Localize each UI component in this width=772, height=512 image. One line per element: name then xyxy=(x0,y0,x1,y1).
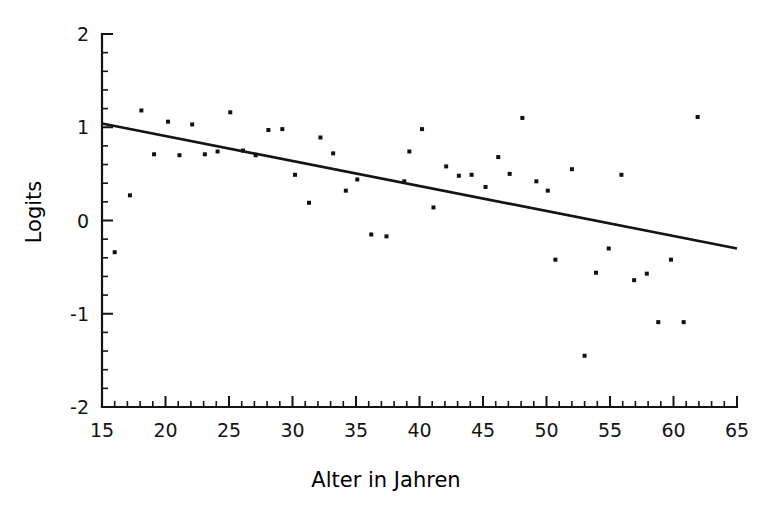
scatter-plot-figure: 1520253035404550556065-2-1012 Alter in J… xyxy=(0,0,772,512)
data-point xyxy=(152,152,156,156)
data-point xyxy=(266,128,270,132)
x-tick-label: 25 xyxy=(217,419,241,441)
y-axis-title-text: Logits xyxy=(22,181,46,244)
data-point xyxy=(355,177,359,181)
data-point xyxy=(431,205,435,209)
data-point xyxy=(607,246,611,250)
data-point xyxy=(632,278,636,282)
x-tick-label: 60 xyxy=(661,419,685,441)
data-point xyxy=(570,167,574,171)
data-point xyxy=(546,189,550,193)
data-point xyxy=(594,271,598,275)
data-point xyxy=(344,189,348,193)
data-point xyxy=(216,149,220,153)
data-point xyxy=(484,185,488,189)
tick-marks xyxy=(102,34,737,407)
plot-canvas: 1520253035404550556065-2-1012 xyxy=(0,0,772,512)
x-tick-label: 30 xyxy=(280,419,304,441)
data-point xyxy=(177,153,181,157)
data-points xyxy=(113,108,700,357)
data-point xyxy=(496,155,500,159)
data-point xyxy=(280,127,284,131)
data-point xyxy=(139,108,143,112)
data-point xyxy=(645,272,649,276)
data-point xyxy=(520,116,524,120)
x-tick-label: 40 xyxy=(407,419,431,441)
data-point xyxy=(407,149,411,153)
axes xyxy=(102,34,737,407)
data-point xyxy=(228,110,232,114)
x-tick-label: 45 xyxy=(471,419,495,441)
data-point xyxy=(166,120,170,124)
x-tick-label: 35 xyxy=(344,419,368,441)
data-point xyxy=(457,174,461,178)
fit-line xyxy=(102,124,737,249)
y-tick-label: 1 xyxy=(77,116,89,138)
x-tick-label: 15 xyxy=(90,419,114,441)
x-axis-title-text: Alter in Jahren xyxy=(311,468,460,492)
x-axis-title: Alter in Jahren xyxy=(0,468,772,492)
data-point xyxy=(384,234,388,238)
data-point xyxy=(508,172,512,176)
data-point xyxy=(420,127,424,131)
x-tick-label: 65 xyxy=(725,419,749,441)
y-tick-label: 2 xyxy=(77,23,89,45)
data-point xyxy=(331,151,335,155)
x-tick-label: 20 xyxy=(153,419,177,441)
data-point xyxy=(669,258,673,262)
data-point xyxy=(696,115,700,119)
y-tick-label: -2 xyxy=(70,396,89,418)
data-point xyxy=(583,354,587,358)
data-point xyxy=(113,250,117,254)
regression-line xyxy=(102,124,737,249)
data-point xyxy=(656,320,660,324)
data-point xyxy=(619,173,623,177)
x-tick-label: 55 xyxy=(598,419,622,441)
data-point xyxy=(682,320,686,324)
data-point xyxy=(128,193,132,197)
data-point xyxy=(369,232,373,236)
data-point xyxy=(318,136,322,140)
data-point xyxy=(553,258,557,262)
data-point xyxy=(470,173,474,177)
y-tick-label: 0 xyxy=(77,210,89,232)
data-point xyxy=(293,173,297,177)
data-point xyxy=(190,122,194,126)
y-axis-title: Logits xyxy=(22,132,46,292)
data-point xyxy=(534,179,538,183)
data-point xyxy=(307,201,311,205)
data-point xyxy=(203,152,207,156)
data-point xyxy=(444,164,448,168)
y-tick-label: -1 xyxy=(70,303,89,325)
x-tick-label: 50 xyxy=(534,419,558,441)
